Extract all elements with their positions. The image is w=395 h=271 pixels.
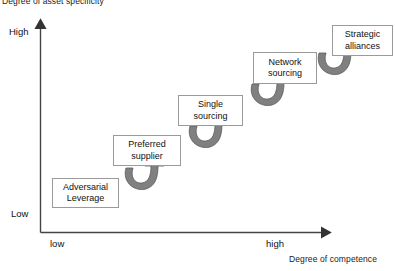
y-axis-low-label: Low	[11, 208, 28, 219]
stage-box-label-line2: sourcing	[268, 68, 302, 80]
stage-box-label-line2: supplier	[131, 151, 163, 163]
stage-box-label-line1: Strategic	[345, 29, 381, 41]
stage-box-strategic-alliances: Strategic alliances	[332, 25, 393, 56]
x-axis-low-label: low	[50, 238, 64, 249]
stage-box-label-line2: Leverage	[67, 193, 105, 205]
stage-box-single-sourcing: Single sourcing	[178, 95, 243, 126]
diagram-canvas: Degree of asset specificity High Low low…	[0, 0, 395, 271]
stage-box-preferred-supplier: Preferred supplier	[113, 135, 181, 166]
stage-box-label-line2: sourcing	[193, 111, 227, 123]
x-axis-title: Degree of competence	[289, 254, 377, 264]
y-axis-high-label: High	[9, 26, 29, 37]
y-axis-title: Degree of asset specificity	[2, 0, 104, 6]
stage-box-label-line1: Adversarial	[63, 182, 108, 194]
stage-box-label-line1: Network	[268, 57, 301, 69]
stage-box-network-sourcing: Network sourcing	[253, 52, 317, 84]
stage-box-label-line1: Single	[198, 99, 223, 111]
x-axis-high-label: high	[266, 238, 284, 249]
stage-box-label-line1: Preferred	[128, 139, 166, 151]
stage-box-label-line2: alliances	[345, 41, 380, 53]
stage-box-adversarial-leverage: Adversarial Leverage	[52, 178, 119, 208]
